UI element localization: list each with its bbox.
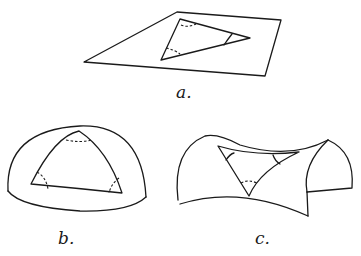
angle-arc-right [273, 155, 280, 164]
saddle-bottom-edge [180, 197, 308, 216]
figure-c-label: c. [255, 228, 270, 248]
figure-a-plane [84, 12, 281, 76]
figure-c-saddle [177, 135, 352, 216]
angle-arc-left [166, 48, 180, 54]
angle-arc-left [226, 153, 234, 160]
angle-arc-left [37, 172, 48, 189]
plane-outline [84, 12, 281, 76]
geometry-diagram [0, 0, 361, 256]
figure-a-label: a. [176, 82, 192, 102]
figure-b-label: b. [58, 228, 74, 248]
sphere-triangle [31, 131, 122, 193]
angle-arc-top [66, 140, 92, 142]
sphere-outer-arc [8, 126, 146, 197]
sphere-bottom-edge [8, 191, 146, 211]
angle-arc-top [181, 24, 196, 26]
plane-triangle [161, 19, 250, 60]
figure-b-sphere [8, 126, 146, 211]
saddle-right-edge [307, 192, 308, 216]
saddle-right-arch [307, 140, 352, 192]
angle-arc-bottom [241, 181, 257, 183]
saddle-triangle [218, 146, 299, 196]
